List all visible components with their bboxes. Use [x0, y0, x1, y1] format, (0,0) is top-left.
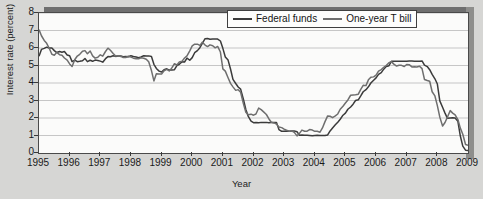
x-tick-mark — [99, 152, 100, 156]
x-tick-mark — [375, 152, 376, 156]
legend-swatch-federal-funds — [233, 18, 252, 20]
x-tick-mark — [130, 152, 131, 156]
x-tick-mark — [283, 152, 284, 156]
y-tick-mark — [34, 47, 38, 48]
x-tick-label: 2003 — [272, 158, 294, 168]
x-tick-mark — [253, 152, 254, 156]
x-tick-mark — [436, 152, 437, 156]
y-tick-mark — [34, 82, 38, 83]
y-axis-title: Interest rate (percent) — [4, 0, 15, 120]
x-tick-mark — [314, 152, 315, 156]
x-tick-label: 1999 — [149, 158, 171, 168]
y-tick-label: 6 — [20, 42, 34, 52]
x-tick-label: 2005 — [333, 158, 355, 168]
x-tick-label: 1996 — [58, 158, 80, 168]
x-tick-label: 2002 — [241, 158, 263, 168]
x-tick-label: 2008 — [425, 158, 447, 168]
x-tick-mark — [222, 152, 223, 156]
interest-rate-chart: 012345678 199519961997199819992000200120… — [0, 0, 483, 199]
x-tick-label: 1995 — [27, 158, 49, 168]
legend-label-one-year-t-bill: One-year T bill — [346, 13, 411, 24]
chart-legend: Federal funds One-year T bill — [227, 10, 417, 28]
legend-swatch-one-year-t-bill — [323, 18, 342, 20]
y-tick-label: 1 — [20, 130, 34, 140]
x-tick-mark — [191, 152, 192, 156]
x-tick-label: 2000 — [180, 158, 202, 168]
series-lines — [39, 13, 468, 153]
y-tick-mark — [34, 30, 38, 31]
y-tick-mark — [34, 12, 38, 13]
y-tick-mark — [34, 100, 38, 101]
x-tick-mark — [161, 152, 162, 156]
x-tick-label: 1998 — [119, 158, 141, 168]
y-tick-mark — [34, 152, 38, 153]
x-tick-label: 2004 — [303, 158, 325, 168]
x-tick-mark — [406, 152, 407, 156]
y-tick-label: 0 — [20, 147, 34, 157]
x-tick-label: 1997 — [88, 158, 110, 168]
x-tick-label: 2006 — [364, 158, 386, 168]
y-tick-label: 4 — [20, 77, 34, 87]
x-tick-label: 2009 — [456, 158, 478, 168]
x-tick-mark — [69, 152, 70, 156]
y-tick-label: 3 — [20, 95, 34, 105]
y-tick-label: 2 — [20, 112, 34, 122]
y-tick-mark — [34, 135, 38, 136]
y-tick-label: 5 — [20, 60, 34, 70]
legend-item-federal-funds: Federal funds — [233, 13, 317, 24]
x-tick-mark — [344, 152, 345, 156]
y-tick-mark — [34, 65, 38, 66]
x-axis-title: Year — [0, 178, 483, 189]
legend-item-one-year-t-bill: One-year T bill — [323, 13, 411, 24]
plot-area — [38, 12, 469, 154]
x-tick-label: 2001 — [211, 158, 233, 168]
y-tick-label: 8 — [20, 7, 34, 17]
y-tick-label: 7 — [20, 25, 34, 35]
legend-label-federal-funds: Federal funds — [256, 13, 317, 24]
y-tick-mark — [34, 117, 38, 118]
x-tick-label: 2007 — [395, 158, 417, 168]
